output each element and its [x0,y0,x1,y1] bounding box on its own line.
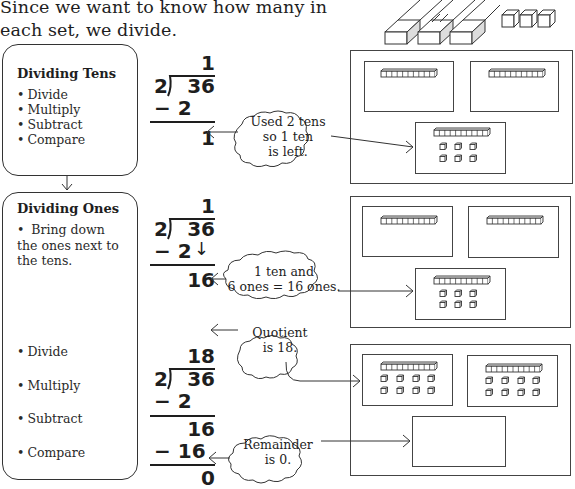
group-box-3b [467,355,558,407]
group-box-2a [362,206,453,257]
subtract-line-1: − 2 [154,391,192,411]
bullet-bring-down: Bring down the ones next to the tens. [17,222,129,269]
quotient: 1 [201,196,215,216]
subtract-line-2: − 16 [154,441,206,461]
dividend: 36 [187,219,215,239]
step-box-dividing-ones: Dividing Ones Bring down the ones next t… [2,192,138,480]
partial-difference: 16 [187,419,215,439]
intro-text: Since we want to know how many in each s… [0,0,327,42]
long-division-step-1: 1 2 36 − 2 1 [150,53,215,173]
dividend: 36 [187,369,215,389]
bullet-subtract: Subtract [17,411,82,426]
callout-remainder: Remainder is 0. [234,437,322,467]
step-box-dividing-tens: Dividing Tens Divide Multiply Subtract C… [2,44,138,176]
long-division-step-3: 18 2 36 − 2 16 − 16 0 [150,346,215,480]
subtract-line: − 2 [154,241,192,261]
callout-tens-left: Used 2 tens so 1 ten is left. [245,114,331,159]
long-division-step-2: 1 2 36 − 2 ↓ 16 [150,196,215,316]
intro-line-2: each set, we divide. [0,19,327,42]
quotient: 18 [187,346,215,366]
group-box-1b [470,61,559,112]
divisor: 2 [154,76,168,96]
leftover-box-2 [415,268,506,320]
quotient: 1 [201,53,215,73]
group-box-3a [362,354,453,406]
subtract-line: − 2 [154,98,192,118]
bullet-divide: Divide [17,87,85,102]
leftover-box-3-empty [412,416,506,467]
group-box-2b [468,206,559,258]
remainder: 0 [201,468,215,488]
bullet-subtract: Subtract [17,117,85,132]
bullet-compare: Compare [17,132,85,147]
intro-line-1: Since we want to know how many in [0,0,327,19]
dividend: 36 [187,76,215,96]
bullet-divide: Divide [17,344,68,359]
bullet-multiply: Multiply [17,378,80,393]
step-title: Dividing Ones [17,201,119,216]
callout-regroup: 1 ten and 6 ones = 16 ones. [226,264,342,294]
bring-down-arrow-icon: ↓ [194,238,209,259]
group-box-1a [364,61,454,112]
divisor: 2 [154,369,168,389]
bullet-multiply: Multiply [17,102,85,117]
divisor: 2 [154,219,168,239]
bullet-compare: Compare [17,445,85,460]
callout-quotient: Quotient is 18. [242,325,318,355]
difference: 16 [187,270,215,290]
difference: 1 [201,128,215,148]
leftover-box-1 [415,122,506,174]
step-title: Dividing Tens [17,66,116,81]
